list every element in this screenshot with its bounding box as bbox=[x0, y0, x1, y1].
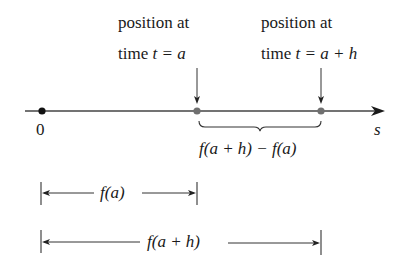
label-t-equals-a: t = a bbox=[152, 44, 185, 63]
fah-label: f(a + h) bbox=[147, 233, 200, 250]
label-position-at-a-line2: time t = a bbox=[118, 45, 186, 62]
label-time-word: time bbox=[118, 44, 152, 63]
label-position-at-a-line1: position at bbox=[118, 14, 189, 31]
point-a-plus-h bbox=[317, 107, 324, 114]
point-a bbox=[193, 107, 200, 114]
arrow-down-icon-a bbox=[194, 68, 200, 104]
origin-point bbox=[38, 107, 45, 114]
axis-variable-label: s bbox=[374, 121, 381, 138]
label-t-equals-a-plus-h: t = a + h bbox=[295, 44, 357, 63]
label-time-word: time bbox=[261, 44, 295, 63]
underbrace-icon bbox=[199, 121, 321, 131]
label-position-at-a-plus-h-line1: position at bbox=[261, 14, 332, 31]
diagram-canvas bbox=[0, 0, 402, 267]
arrow-down-icon-a-plus-h bbox=[318, 68, 324, 104]
label-position-at-a-plus-h-line2: time t = a + h bbox=[261, 45, 357, 62]
origin-label: 0 bbox=[36, 121, 45, 138]
difference-label: f(a + h) − f(a) bbox=[199, 140, 297, 157]
fa-label: f(a) bbox=[100, 184, 125, 201]
